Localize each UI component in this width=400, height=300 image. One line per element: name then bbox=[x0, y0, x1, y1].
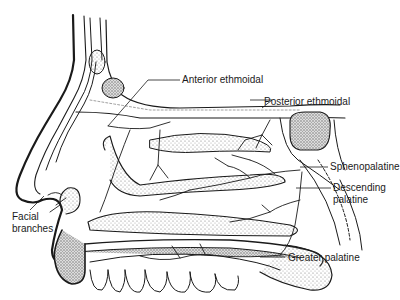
nose-profile bbox=[16, 15, 74, 203]
descending-palatine-nerve bbox=[280, 172, 302, 255]
teeth bbox=[90, 270, 239, 292]
label-anterior-ethmoidal: Anterior ethmoidal bbox=[182, 74, 263, 85]
label-facial-branches-line1: Facial bbox=[12, 211, 39, 222]
label-descending-palatine-line1: Descending bbox=[333, 182, 386, 193]
label-facial-branches-line2: branches bbox=[12, 223, 53, 234]
sphenoid-sinus bbox=[290, 112, 330, 150]
label-sphenopalatine: Sphenopalatine bbox=[330, 161, 400, 172]
frontal-sinus bbox=[89, 50, 105, 74]
superior-turbinate bbox=[150, 133, 271, 152]
upper-lip bbox=[54, 230, 85, 284]
label-descending-palatine-line2: palatine bbox=[333, 194, 368, 205]
inferior-turbinate bbox=[88, 212, 298, 236]
label-posterior-ethmoidal: Posterior ethmoidal bbox=[264, 96, 350, 107]
label-greater-palatine: Greater palatine bbox=[288, 252, 360, 263]
